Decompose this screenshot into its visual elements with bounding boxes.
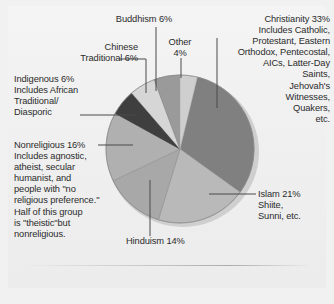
pie-label-indigenous: Indigenous 6% Includes African Tradition… — [14, 74, 120, 118]
pie-label-hinduism: Hinduism 14% — [126, 236, 222, 247]
pie-chart-figure: Christianity 33% Includes Catholic, Prot… — [0, 0, 334, 304]
pie-label-christianity: Christianity 33% Includes Catholic, Prot… — [212, 14, 330, 125]
pie-label-other: Other 4% — [160, 37, 200, 59]
pie-label-islam: Islam 21% Shiite, Sunni, etc. — [258, 189, 332, 222]
pie-label-chinese-traditional: Chinese Traditional 6% — [44, 42, 138, 64]
pie-label-buddhism: Buddhism 6% — [102, 14, 186, 25]
pie-label-nonreligious: Nonreligious 16% Includes agnostic, athe… — [14, 140, 126, 240]
